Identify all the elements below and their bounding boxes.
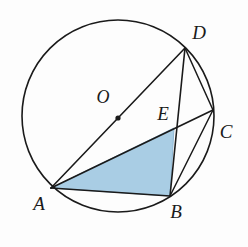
label-vertex-a: A xyxy=(31,193,45,214)
geometry-figure: O A B C D E xyxy=(0,0,248,247)
segment-d-b xyxy=(170,48,185,196)
geometry-canvas: O A B C D E xyxy=(0,0,248,247)
segment-d-c xyxy=(185,48,213,110)
label-vertex-e: E xyxy=(156,103,169,124)
label-vertex-b: B xyxy=(170,201,182,222)
label-vertex-d: D xyxy=(191,22,206,43)
label-center-o: O xyxy=(97,87,110,107)
center-point-dot xyxy=(115,115,120,120)
label-vertex-c: C xyxy=(220,121,233,142)
